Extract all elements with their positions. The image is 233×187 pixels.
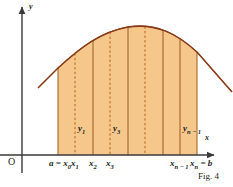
ordinate-label-y1: y1 [78, 124, 85, 135]
x-tick-label-x1: x1 [71, 159, 79, 170]
x-tick-label-a: a = x0 [49, 159, 71, 170]
ordinate-label-yn1: yn − 1 [183, 124, 201, 135]
ordinate-label-y3: y3 [113, 124, 120, 135]
x-tick-label-x3: x3 [106, 159, 114, 170]
x-axis-label: x [205, 134, 209, 142]
figure-container: y x O a = x0x1x2x3xn − 1xn = b y1y3yn − … [0, 0, 233, 187]
origin-label: O [8, 157, 15, 167]
x-tick-label-xn: xn = b [190, 159, 212, 170]
y-axis-label: y [29, 3, 33, 11]
x-tick-label-xn1: xn − 1 [170, 159, 189, 170]
x-tick-label-x2: x2 [89, 159, 97, 170]
figure-caption: Fig. 4 [198, 172, 219, 181]
